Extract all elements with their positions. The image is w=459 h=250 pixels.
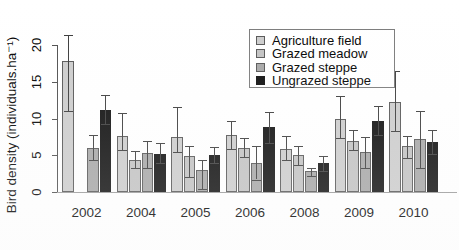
error-bar-cap-lower <box>374 135 383 136</box>
x-axis-tick-label: 2002 <box>56 205 117 220</box>
error-bar-cap-upper <box>89 135 98 136</box>
error-bar-cap-upper <box>101 95 110 96</box>
error-bar-cap-upper <box>173 107 182 108</box>
error-bar-stem <box>353 130 354 150</box>
error-bar-stem <box>214 147 215 162</box>
error-bar-cap-lower <box>361 168 370 169</box>
error-bar-cap-lower <box>416 168 425 169</box>
error-bar-cap-lower <box>156 163 165 164</box>
error-bar-cap-upper <box>416 111 425 112</box>
error-bar-stem <box>135 151 136 169</box>
error-bar-stem <box>420 111 421 168</box>
error-bar-cap-upper <box>361 137 370 138</box>
error-bar-cap-lower <box>428 154 437 155</box>
x-axis-tick-label: 2008 <box>274 205 335 220</box>
x-axis-tick-label: 2005 <box>165 205 226 220</box>
error-bar-cap-lower <box>198 189 207 190</box>
legend-color-swatch <box>256 49 265 58</box>
error-bar-cap-upper <box>336 96 345 97</box>
error-bar-stem <box>256 146 257 180</box>
error-bar-stem <box>177 107 178 151</box>
error-bar-cap-lower <box>173 152 182 153</box>
error-bar-stem <box>105 95 106 124</box>
error-bar-cap-lower <box>403 158 412 159</box>
error-bar-cap-upper <box>118 113 127 114</box>
error-bar-cap-upper <box>240 138 249 139</box>
error-bar-stem <box>286 136 287 160</box>
legend-item: Grazed meadow <box>256 47 367 61</box>
error-bar-cap-lower <box>131 168 140 169</box>
error-bar-cap-lower <box>391 131 400 132</box>
error-bar-cap-upper <box>131 151 140 152</box>
y-axis-tick-label: 15 <box>29 71 45 93</box>
error-bar-cap-upper <box>294 146 303 147</box>
legend-label: Agriculture field <box>272 34 362 47</box>
error-bar-stem <box>189 146 190 177</box>
x-axis-line <box>57 192 457 193</box>
error-bar-stem <box>298 146 299 164</box>
error-bar-stem <box>147 141 148 167</box>
error-bar-cap-upper <box>143 141 152 142</box>
y-axis-tick <box>52 119 57 120</box>
x-axis-tick-label: 2009 <box>329 205 390 220</box>
legend-color-swatch <box>256 63 265 72</box>
error-bar-cap-lower <box>240 157 249 158</box>
error-bar-stem <box>269 112 270 144</box>
x-axis-tick-label: 2010 <box>383 205 444 220</box>
error-bar-cap-upper <box>64 35 73 36</box>
error-bar-cap-upper <box>185 146 194 147</box>
error-bar-cap-upper <box>227 121 236 122</box>
y-axis-tick-label: 10 <box>29 108 45 130</box>
error-bar-cap-lower <box>210 163 219 164</box>
error-bar-cap-upper <box>428 130 437 131</box>
error-bar-cap-upper <box>252 146 261 147</box>
error-bar-stem <box>323 156 324 171</box>
error-bar-cap-upper <box>210 147 219 148</box>
x-axis-tick-label: 2006 <box>220 205 281 220</box>
chart-legend: Agriculture fieldGrazed meadowGrazed ste… <box>249 29 395 88</box>
error-bar-stem <box>395 71 396 131</box>
error-bar-cap-upper <box>403 136 412 137</box>
legend-item: Grazed steppe <box>256 60 357 74</box>
error-bar-stem <box>93 135 94 160</box>
error-bar-cap-lower <box>307 176 316 177</box>
error-bar-cap-lower <box>349 150 358 151</box>
bar-chart-figure: Bird density (individuals.ha⁻¹) 05101520… <box>0 0 459 250</box>
error-bar-stem <box>244 138 245 156</box>
error-bar-stem <box>160 143 161 163</box>
legend-color-swatch <box>256 76 265 85</box>
error-bar-cap-upper <box>374 106 383 107</box>
error-bar-cap-lower <box>143 168 152 169</box>
y-axis-tick-label: 5 <box>29 144 45 166</box>
legend-label: Grazed steppe <box>272 61 357 74</box>
error-bar-stem <box>340 96 341 138</box>
legend-item: Agriculture field <box>256 33 362 47</box>
y-axis-tick-label: 0 <box>29 181 45 203</box>
error-bar-cap-upper <box>265 112 274 113</box>
error-bar-cap-upper <box>319 156 328 157</box>
error-bar-stem <box>231 121 232 149</box>
y-axis-tick <box>52 155 57 156</box>
error-bar-stem <box>68 35 69 111</box>
error-bar-cap-lower <box>185 177 194 178</box>
error-bar-stem <box>365 137 366 168</box>
error-bar-cap-lower <box>265 143 274 144</box>
error-bar-stem <box>407 136 408 158</box>
y-axis-tick <box>52 82 57 83</box>
error-bar-cap-lower <box>336 138 345 139</box>
error-bar-cap-lower <box>294 165 303 166</box>
error-bar-stem <box>378 106 379 135</box>
error-bar-stem <box>122 113 123 150</box>
legend-label: Ungrazed steppe <box>272 74 371 87</box>
y-axis-tick <box>52 45 57 46</box>
x-axis-tick-label: 2004 <box>111 205 172 220</box>
error-bar-cap-lower <box>319 171 328 172</box>
legend-color-swatch <box>256 36 265 45</box>
y-axis-line <box>57 45 58 192</box>
error-bar-cap-upper <box>156 143 165 144</box>
legend-label: Grazed meadow <box>272 47 367 60</box>
error-bar-cap-upper <box>198 160 207 161</box>
error-bar-cap-lower <box>282 160 291 161</box>
error-bar-cap-lower <box>101 124 110 125</box>
y-axis-tick-label: 20 <box>29 34 45 56</box>
